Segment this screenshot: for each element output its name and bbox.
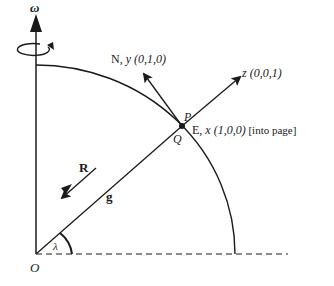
point-p-label: P bbox=[183, 110, 192, 124]
latitude-angle-arc bbox=[60, 233, 72, 254]
east-label: E, x (1,0,0) [into page] bbox=[192, 123, 296, 137]
north-axis-arrow bbox=[144, 74, 182, 126]
angle-lambda-label: λ bbox=[52, 240, 58, 252]
origin-label: O bbox=[30, 260, 40, 275]
earth-surface-arc bbox=[36, 65, 235, 254]
r-arrow-icon bbox=[61, 184, 72, 194]
r-label: R bbox=[79, 160, 89, 175]
g-label: g bbox=[106, 189, 113, 204]
rotation-axis bbox=[30, 14, 42, 254]
earth-rotation-diagram: ω N, y (0,1,0) z (0,0,1) P Q E, x (1,0,0… bbox=[0, 0, 334, 286]
north-label: N, y (0,1,0) bbox=[111, 52, 166, 66]
omega-label: ω bbox=[30, 0, 39, 15]
z-label: z (0,0,1) bbox=[241, 66, 282, 80]
omega-arrow-icon bbox=[30, 14, 42, 32]
point-q-label: Q bbox=[173, 132, 182, 146]
